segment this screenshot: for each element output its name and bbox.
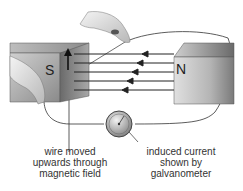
galvanometer — [106, 111, 138, 142]
galvanometer-label-line-2: shown by — [138, 157, 224, 168]
north-pole-label: N — [176, 61, 186, 77]
north-magnet: N — [174, 43, 234, 104]
galvanometer-label: induced current shown by galvanometer — [138, 146, 224, 179]
diagram: S N wire moved upwards through magnetic … — [0, 0, 243, 191]
wire-label-line-3: magnetic field — [25, 168, 115, 179]
top-hand — [80, 12, 130, 43]
wire-label-line-2: upwards through — [25, 157, 115, 168]
south-pole-label: S — [45, 62, 54, 78]
circuit-wire-left — [44, 100, 104, 124]
wire-label-line-1: wire moved — [25, 146, 115, 157]
wire-label: wire moved upwards through magnetic fiel… — [25, 146, 115, 179]
galvanometer-label-line-3: galvanometer — [138, 168, 224, 179]
galvanometer-label-line-1: induced current — [138, 146, 224, 157]
galvanometer-pointer-line — [129, 132, 138, 142]
